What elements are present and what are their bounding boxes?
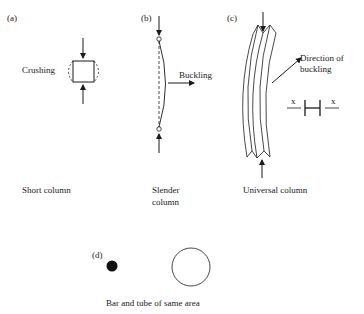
axis-x-left-label: x — [291, 96, 296, 107]
pin-bottom — [157, 127, 161, 131]
bulge-left-dashed — [69, 61, 74, 82]
web-left — [253, 33, 263, 158]
pin-top — [157, 37, 161, 41]
short-column-figure — [69, 38, 99, 104]
buckling-label: Buckling — [179, 70, 212, 81]
axis-x-right-label: x — [331, 96, 336, 107]
bar-and-tube-caption: Bar and tube of same area — [106, 298, 200, 309]
solid-bar — [107, 261, 118, 272]
column-failure-diagram — [0, 0, 364, 314]
short-column-caption: Short column — [22, 185, 71, 196]
slender-column-caption-line1: Slender — [152, 185, 180, 196]
i-section-icon — [305, 100, 320, 116]
direction-of-buckling-line2: buckling — [300, 64, 332, 75]
buckled-shape — [159, 41, 166, 127]
panel-c-tag: (c) — [227, 13, 237, 24]
slender-column-figure — [157, 16, 194, 153]
flange-right-outer — [266, 33, 276, 157]
slender-column-caption-line2: column — [152, 197, 179, 208]
buckling-direction-arrow — [272, 58, 301, 83]
web-right — [260, 25, 270, 151]
crushing-label: Crushing — [22, 65, 55, 76]
short-column-block — [73, 61, 94, 82]
panel-d-tag: (d) — [92, 250, 103, 261]
hollow-tube — [172, 248, 210, 286]
panel-a-tag: (a) — [7, 13, 17, 24]
direction-of-buckling-line1: Direction of — [300, 53, 344, 64]
flange-left-inner — [248, 25, 258, 151]
panel-b-tag: (b) — [141, 13, 152, 24]
universal-column-caption: Universal column — [243, 185, 307, 196]
universal-column-figure — [243, 12, 339, 178]
bulge-right-dashed — [94, 61, 99, 82]
bar-and-tube-figure — [107, 248, 211, 286]
